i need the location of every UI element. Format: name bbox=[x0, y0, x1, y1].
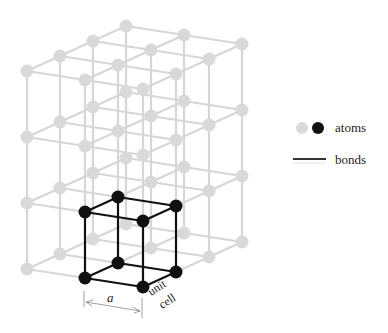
bond bbox=[93, 41, 151, 50]
bond bbox=[126, 26, 184, 35]
lattice-atom bbox=[54, 182, 67, 195]
lattice-atom bbox=[137, 83, 150, 96]
lattice-atom bbox=[236, 236, 249, 249]
lattice-atom bbox=[79, 140, 92, 153]
lattice-atom bbox=[236, 170, 249, 183]
unit-cell-atom bbox=[79, 206, 92, 219]
lattice-atom bbox=[120, 152, 133, 165]
lattice-atom bbox=[112, 59, 125, 72]
lattice-atom bbox=[178, 227, 191, 240]
bond bbox=[151, 248, 209, 257]
lattice-atom bbox=[178, 95, 191, 108]
bond bbox=[184, 167, 242, 176]
bond bbox=[151, 50, 209, 59]
lattice-atom bbox=[87, 233, 100, 246]
unit-cell-atom bbox=[170, 200, 183, 213]
dimension-marker: a bbox=[84, 290, 142, 318]
lattice-atom bbox=[21, 197, 34, 210]
bond bbox=[118, 263, 176, 272]
lattice-atom bbox=[87, 167, 100, 180]
lattice-atom bbox=[21, 65, 34, 78]
bond bbox=[151, 182, 209, 191]
bond bbox=[85, 278, 143, 287]
lattice-atom bbox=[170, 134, 183, 147]
legend: atoms bonds bbox=[293, 120, 366, 167]
lattice-atom bbox=[54, 50, 67, 63]
lattice-atom bbox=[112, 125, 125, 138]
lattice-atom bbox=[203, 119, 216, 132]
unit-cell-atom bbox=[112, 191, 125, 204]
legend-atoms-label: atoms bbox=[335, 120, 366, 135]
lattice-atom bbox=[137, 149, 150, 162]
lattice-atom bbox=[145, 176, 158, 189]
dimension-label: a bbox=[107, 290, 114, 305]
black-atom-swatch-icon bbox=[312, 122, 324, 134]
bond bbox=[60, 188, 118, 197]
bond bbox=[184, 101, 242, 110]
unit-cell-atom bbox=[137, 215, 150, 228]
lattice-atom bbox=[120, 86, 133, 99]
lattice-atom bbox=[178, 161, 191, 174]
lattice-atom bbox=[87, 101, 100, 114]
lattice-atom bbox=[203, 185, 216, 198]
lattice-atom bbox=[145, 242, 158, 255]
lattice-atom bbox=[87, 35, 100, 48]
lattice-atom bbox=[236, 38, 249, 51]
bond bbox=[184, 35, 242, 44]
lattice-atom bbox=[79, 74, 92, 87]
bond bbox=[151, 116, 209, 125]
lattice-atom bbox=[203, 53, 216, 66]
lattice-atom bbox=[145, 110, 158, 123]
bond bbox=[27, 137, 85, 146]
bond bbox=[60, 122, 118, 131]
lattice-atom bbox=[21, 263, 34, 276]
lattice-atom bbox=[21, 131, 34, 144]
bond bbox=[184, 233, 242, 242]
unit-cell-atom bbox=[79, 272, 92, 285]
lattice-atom bbox=[145, 44, 158, 57]
lattice-atom bbox=[170, 68, 183, 81]
bond bbox=[27, 269, 85, 278]
gray-atom-swatch-icon bbox=[296, 122, 308, 134]
lattice-atom bbox=[54, 116, 67, 129]
lattice-atom bbox=[203, 251, 216, 264]
bond bbox=[60, 56, 118, 65]
bond bbox=[60, 254, 118, 263]
bond bbox=[27, 203, 85, 212]
lattice-atom bbox=[54, 248, 67, 261]
lattice-atom bbox=[178, 29, 191, 42]
legend-bonds-label: bonds bbox=[335, 152, 366, 167]
lattice-atom bbox=[236, 104, 249, 117]
lattice-diagram: a unit cell atoms bonds bbox=[0, 0, 388, 333]
unit-cell-atom bbox=[170, 266, 183, 279]
lattice-atom bbox=[120, 20, 133, 33]
bond bbox=[27, 71, 85, 80]
unit-cell-atom bbox=[112, 257, 125, 270]
